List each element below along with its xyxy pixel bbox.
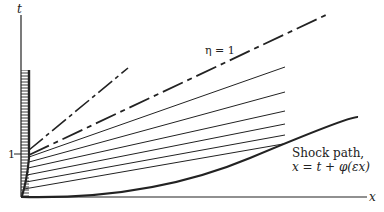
fan-line: [29, 92, 285, 162]
steep-dashed-characteristic: [29, 68, 128, 150]
eta-one-label: η = 1: [205, 44, 235, 57]
eta-one-characteristic: [29, 14, 328, 155]
tick-one-label: 1: [8, 148, 15, 161]
characteristics-diagram: t x 1 η = 1 Shock path, x = t + φ(εx): [0, 0, 384, 212]
x-axis-label: x: [369, 190, 376, 204]
fan-line: [24, 144, 283, 189]
shock-label-title: Shock path,: [292, 146, 364, 160]
fan-line: [29, 67, 285, 157]
characteristic-fan: [24, 67, 285, 189]
hatched-piston-region: [21, 70, 29, 197]
fan-line: [27, 124, 285, 175]
t-axis-label: t: [17, 2, 22, 16]
shock-label-equation: x = t + φ(εx): [292, 160, 370, 174]
